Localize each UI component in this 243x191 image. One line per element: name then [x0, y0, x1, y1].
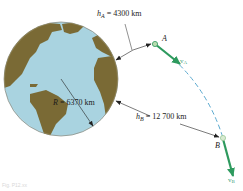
velocity-b-arrow [223, 139, 233, 176]
velocity-b-label: vB [228, 176, 235, 184]
altitude-b-label: hB = 12 700 km [136, 113, 186, 122]
point-b-label: B [215, 142, 220, 150]
altitude-a-subscript: A [101, 13, 105, 19]
velocity-a-subscript: A [184, 60, 188, 65]
altitude-a-label: hA = 4300 km [97, 10, 141, 19]
trajectory-arc [155, 44, 223, 138]
figure-caption: Fig. P12.xx [2, 182, 27, 188]
radius-symbol: R [53, 98, 58, 107]
altitude-a-dimension [116, 24, 151, 60]
diagram-svg [0, 0, 243, 191]
altitude-b-subscript: B [140, 116, 144, 122]
point-a-marker [152, 41, 157, 46]
altitude-a-value: = 4300 km [107, 9, 142, 18]
radius-value: = 6370 km [60, 98, 95, 107]
radius-label: R = 6370 km [53, 99, 95, 107]
diagram-canvas: hA = 4300 km A vA R = 6370 km hB = 12 70… [0, 0, 243, 191]
velocity-a-label: vA [180, 57, 187, 65]
velocity-b-subscript: B [232, 179, 235, 184]
altitude-b-value: = 12 700 km [146, 112, 187, 121]
point-b-marker [220, 135, 225, 140]
point-a-label: A [162, 35, 167, 43]
velocity-a-arrow [155, 44, 180, 64]
